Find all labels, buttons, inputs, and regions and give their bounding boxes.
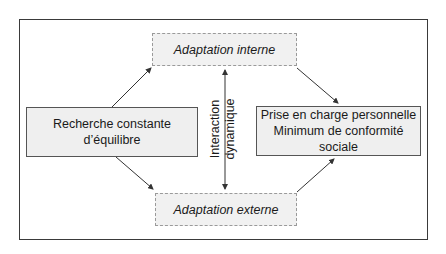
prise-en-charge-line1: Prise en charge personnelle [261, 107, 417, 123]
prise-en-charge-line2: Minimum de conformité sociale [257, 123, 420, 155]
arrow-left-to-bottom [116, 157, 153, 189]
interaction-label-line1: Interaction [208, 87, 223, 171]
arrow-top-to-right [297, 68, 338, 103]
interaction-dynamique-label: Interaction dynamique [208, 87, 240, 171]
adaptation-interne-box: Adaptation interne [152, 33, 297, 66]
recherche-equilibre-box: Recherche constante d’équilibre [26, 107, 198, 157]
recherche-equilibre-label: Recherche constante d’équilibre [27, 116, 197, 148]
adaptation-externe-box: Adaptation externe [155, 193, 297, 226]
arrow-bottom-to-right [297, 159, 334, 192]
arrow-left-to-top [112, 68, 151, 107]
prise-en-charge-box: Prise en charge personnelle Minimum de c… [256, 106, 421, 156]
adaptation-interne-label: Adaptation interne [174, 42, 275, 58]
adaptation-externe-label: Adaptation externe [174, 202, 279, 218]
interaction-label-line2: dynamique [223, 87, 238, 171]
